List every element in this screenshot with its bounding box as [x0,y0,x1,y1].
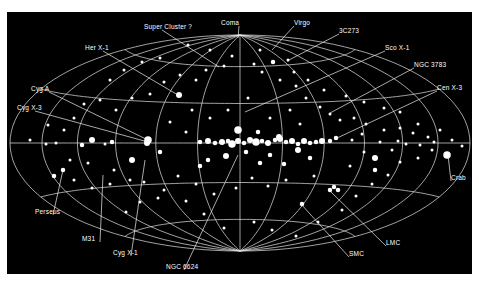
x-ray-source-dot [244,150,249,155]
x-ray-source-dot [417,157,420,160]
label-virgo: Virgo [294,19,310,26]
x-ray-source-dot [300,202,305,207]
x-ray-source-dot [305,97,308,100]
x-ray-source-dot [125,211,128,214]
x-ray-source-dot [129,179,132,182]
x-ray-source-dot [109,183,112,186]
x-ray-source-dot [159,57,162,60]
x-ray-sources [29,44,464,238]
x-ray-source-dot [296,142,301,147]
leader-line-m31 [100,175,103,242]
label-leader-lines [35,26,451,270]
x-ray-source-dot [295,85,298,88]
x-ray-source-dot [391,149,394,152]
x-ray-source-dot [313,175,316,178]
x-ray-source-dot [308,156,313,161]
leader-line-lmc [330,191,386,246]
leader-line-ngc-6624 [184,155,238,270]
x-ray-source-dot [289,138,295,144]
label-perseus: Perseus [35,208,60,215]
leader-line-super-cluster [162,30,219,67]
x-ray-source-dot [235,138,241,144]
leader-line-ngc-3783 [330,68,414,113]
x-ray-source-dot [185,200,188,203]
x-ray-source-dot [73,117,76,120]
x-ray-source-dot [267,185,270,188]
x-ray-source-dot [115,109,118,112]
x-ray-source-dot [371,183,374,186]
x-ray-source-dot [365,123,368,126]
x-ray-source-dot [285,179,288,182]
x-ray-source-dot [252,138,260,146]
x-ray-source-dot [61,168,66,173]
x-ray-source-dot [383,129,386,132]
x-ray-source-dot [293,71,296,74]
x-ray-source-dot [253,221,256,224]
x-ray-source-dot [109,79,112,82]
leader-line-cen-x3 [335,91,437,139]
x-ray-source-dot [80,143,85,148]
x-ray-source-dot [353,117,356,120]
x-ray-source-dot [73,179,76,182]
x-ray-source-dot [461,145,464,148]
leader-line-her-x1 [103,51,178,95]
x-ray-source-dot [373,168,378,173]
x-ray-source-dot [69,159,72,162]
x-ray-source-dot [213,141,218,146]
x-ray-source-dot [139,201,142,204]
label-crab: Crab [451,174,466,181]
x-ray-source-dot [143,181,146,184]
x-ray-source-dot [253,63,256,66]
x-ray-source-dot [261,71,264,74]
x-ray-source-dot [363,101,366,104]
label-3c273: 3C273 [339,27,359,34]
x-ray-source-dot [287,59,290,62]
x-ray-source-dot [205,138,211,144]
x-ray-source-dot [45,143,48,146]
x-ray-source-dot [383,107,386,110]
x-ray-source-dot [319,138,325,144]
x-ray-source-dot [234,126,242,134]
x-ray-source-dot [282,162,287,167]
label-smc: SMC [349,250,364,257]
x-ray-source-dot [187,44,190,47]
x-ray-source-dot [223,227,226,230]
x-ray-source-dot [299,123,302,126]
x-ray-source-dot [319,106,322,109]
x-ray-source-dot [336,188,341,193]
x-ray-source-dot [279,79,282,82]
x-ray-source-dot [419,144,422,147]
x-ray-source-dot [433,141,436,144]
x-ray-source-dot [328,188,333,193]
label-m31: M31 [82,235,95,242]
x-ray-source-dot [83,103,86,106]
x-ray-source-dot [191,109,194,112]
x-ray-source-dot [113,169,116,172]
x-ray-source-dot [63,129,66,132]
x-ray-source-dot [363,151,366,154]
label-cen-x3: Cen X-3 [437,84,462,91]
x-ray-source-dot [251,177,254,180]
x-ray-source-dot [372,155,378,161]
x-ray-source-dot [29,139,32,142]
x-ray-source-dot [205,69,208,72]
x-ray-source-dot [228,140,236,148]
x-ray-source-dot [91,187,94,190]
x-ray-source-dot [110,140,115,145]
x-ray-source-dot [163,189,166,192]
x-ray-source-dot [209,49,212,52]
x-ray-source-dot [223,65,226,68]
x-ray-source-dot [219,139,225,145]
label-cyg-x3: Cyg X-3 [17,104,42,111]
x-ray-source-dot [387,174,390,177]
x-ray-source-dot [47,124,50,127]
x-ray-source-dot [242,141,247,146]
x-ray-source-dot [169,121,172,124]
x-ray-source-dot [307,79,310,82]
x-ray-source-dot [176,92,182,98]
x-ray-source-dot [314,140,319,145]
x-ray-source-dot [323,89,326,92]
x-ray-source-dot [247,137,253,143]
x-ray-source-dot [332,185,337,190]
x-ray-source-dot [405,143,408,146]
